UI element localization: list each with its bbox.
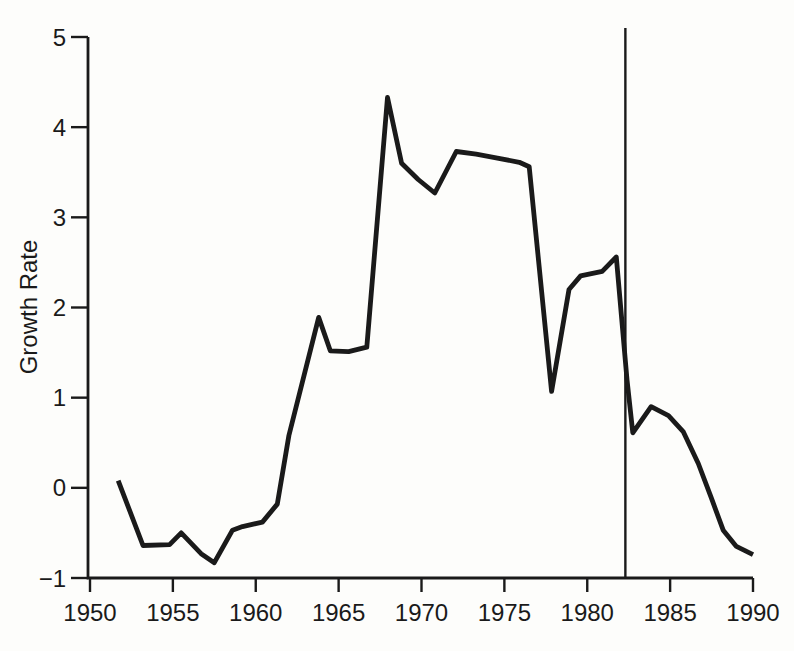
y-axis-tick-label: 1 <box>53 384 66 411</box>
y-axis-tick-label: −1 <box>39 565 66 592</box>
x-axis-tick-label: 1985 <box>643 599 696 626</box>
series-growth-rate <box>118 97 753 562</box>
x-axis-tick-label: 1965 <box>312 599 365 626</box>
y-axis-tick-label: 3 <box>53 204 66 231</box>
x-axis-tick-label: 1970 <box>395 599 448 626</box>
x-axis-tick-label: 1950 <box>63 599 116 626</box>
x-axis-tick-label: 1975 <box>478 599 531 626</box>
x-axis-tick-label: 1960 <box>229 599 282 626</box>
y-axis-tick-label: 5 <box>53 24 66 51</box>
x-axis-tick-label: 1980 <box>561 599 614 626</box>
y-axis-title: Growth Rate <box>15 240 42 375</box>
growth-rate-figure: −101234519501955196019651970197519801985… <box>0 0 794 651</box>
x-axis-tick-label: 1990 <box>726 599 779 626</box>
y-axis-tick-label: 4 <box>53 114 66 141</box>
y-axis-tick-label: 2 <box>53 294 66 321</box>
growth-rate-chart: −101234519501955196019651970197519801985… <box>0 0 794 651</box>
axis-spine <box>88 37 753 578</box>
y-axis-tick-label: 0 <box>53 474 66 501</box>
x-axis-tick-label: 1955 <box>146 599 199 626</box>
